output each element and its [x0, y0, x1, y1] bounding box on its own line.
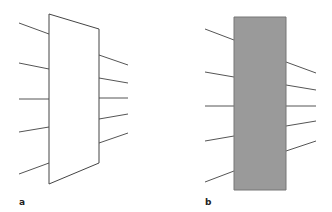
input-line [205, 136, 234, 141]
output-line [286, 121, 316, 126]
input-line [19, 127, 49, 132]
output-line [99, 114, 128, 119]
input-line [19, 63, 49, 69]
output-line [99, 78, 128, 83]
output-line [286, 85, 316, 90]
panel-b-label: b [205, 197, 212, 207]
input-line [19, 163, 49, 174]
input-line [19, 23, 49, 34]
input-line [205, 29, 234, 40]
input-line [205, 72, 234, 77]
trapezoid-block [49, 14, 99, 184]
rectangle-block [234, 17, 286, 190]
diagram-canvas: a b [0, 0, 332, 212]
panel-a [19, 14, 128, 184]
input-line [205, 171, 234, 182]
panel-b [205, 17, 316, 190]
output-line [286, 62, 316, 73]
panel-a-label: a [19, 197, 25, 207]
output-line [99, 133, 128, 143]
output-line [99, 55, 128, 65]
output-line [286, 141, 316, 151]
